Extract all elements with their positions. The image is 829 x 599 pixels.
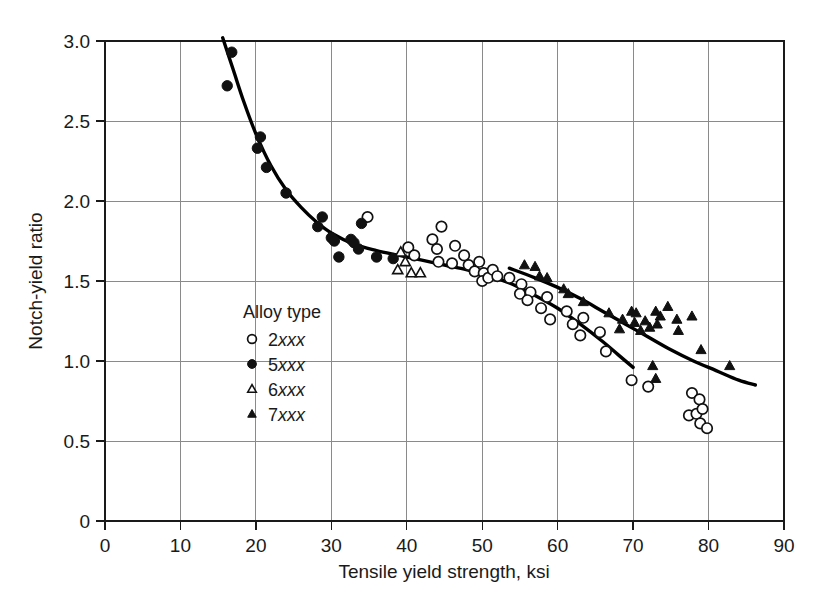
x-tick-label: 30	[321, 535, 342, 556]
data-point-2xxx	[575, 330, 585, 340]
legend-marker-2xxx	[248, 335, 257, 344]
data-point-2xxx	[504, 273, 514, 283]
x-tick-label: 60	[547, 535, 568, 556]
data-point-2xxx	[474, 257, 484, 267]
x-tick-label: 90	[773, 535, 794, 556]
data-point-2xxx	[450, 241, 460, 251]
data-point-2xxx	[568, 319, 578, 329]
data-point-5xxx	[252, 143, 262, 153]
y-tick-label: 0	[79, 511, 90, 532]
data-point-5xxx	[334, 252, 344, 262]
x-tick-label: 40	[396, 535, 417, 556]
data-point-5xxx	[227, 47, 237, 57]
data-point-2xxx	[432, 244, 442, 254]
legend-label-6xxx: 6xxx	[268, 380, 306, 400]
y-tick-label: 1.0	[64, 351, 90, 372]
y-tick-label: 3.0	[64, 31, 90, 52]
x-tick-label: 0	[100, 535, 111, 556]
legend-title: Alloy type	[243, 302, 321, 322]
x-tick-label: 10	[170, 535, 191, 556]
x-tick-label: 70	[623, 535, 644, 556]
data-point-2xxx	[702, 423, 712, 433]
legend-label-2xxx: 2xxx	[268, 330, 306, 350]
data-point-5xxx	[317, 212, 327, 222]
data-point-2xxx	[595, 327, 605, 337]
chart-background	[0, 0, 829, 599]
data-point-2xxx	[433, 257, 443, 267]
data-point-5xxx	[261, 162, 271, 172]
y-tick-label: 2.0	[64, 191, 90, 212]
data-point-2xxx	[492, 271, 502, 281]
data-point-5xxx	[313, 221, 323, 231]
data-point-2xxx	[643, 381, 653, 391]
notch-yield-ratio-scatter-plot: 0102030405060708090 00.51.01.52.02.53.0 …	[0, 0, 829, 599]
data-point-5xxx	[329, 236, 339, 246]
data-point-2xxx	[545, 314, 555, 324]
data-point-2xxx	[562, 306, 572, 316]
x-axis-title: Tensile yield strength, ksi	[338, 561, 549, 582]
y-tick-label: 0.5	[64, 431, 90, 452]
x-tick-label: 50	[472, 535, 493, 556]
x-tick-label: 20	[245, 535, 266, 556]
data-point-5xxx	[281, 188, 291, 198]
data-point-2xxx	[409, 250, 419, 260]
data-point-5xxx	[356, 218, 366, 228]
data-point-2xxx	[578, 313, 588, 323]
data-point-2xxx	[522, 295, 532, 305]
data-point-2xxx	[697, 404, 707, 414]
data-point-5xxx	[353, 244, 363, 254]
y-tick-label: 1.5	[64, 271, 90, 292]
data-point-2xxx	[536, 303, 546, 313]
y-axis-title: Notch-yield ratio	[25, 212, 46, 349]
data-point-5xxx	[371, 252, 381, 262]
data-point-5xxx	[255, 132, 265, 142]
y-tick-label: 2.5	[64, 111, 90, 132]
chart-figure: 0102030405060708090 00.51.01.52.02.53.0 …	[0, 0, 829, 599]
data-point-5xxx	[222, 81, 232, 91]
data-point-2xxx	[542, 292, 552, 302]
data-point-2xxx	[516, 279, 526, 289]
legend-label-7xxx: 7xxx	[268, 405, 306, 425]
data-point-2xxx	[626, 375, 636, 385]
data-point-2xxx	[447, 258, 457, 268]
legend-label-5xxx: 5xxx	[268, 355, 306, 375]
data-point-2xxx	[601, 346, 611, 356]
data-point-2xxx	[436, 221, 446, 231]
legend-marker-5xxx	[248, 360, 257, 369]
x-tick-label: 80	[698, 535, 719, 556]
